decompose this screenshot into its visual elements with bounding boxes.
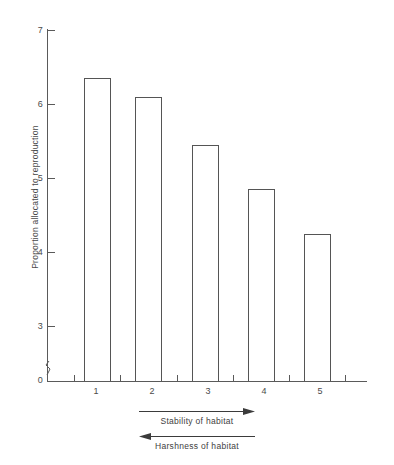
bar-category-1 bbox=[84, 78, 111, 381]
x-tick-5 bbox=[345, 375, 346, 382]
x-axis-line bbox=[47, 381, 367, 382]
x-tick-1 bbox=[120, 375, 121, 382]
y-axis-title: Proportion allocated to reproduction bbox=[30, 82, 40, 312]
y-tick-label-3: 3 bbox=[28, 322, 43, 331]
harshness-annotation: Harshness of habitat bbox=[0, 432, 394, 452]
x-tick-label-4: 4 bbox=[254, 386, 274, 396]
y-tick-4 bbox=[48, 252, 55, 253]
stability-annotation: Stability of habitat bbox=[0, 407, 394, 427]
x-tick-4 bbox=[289, 375, 290, 382]
x-tick-label-3: 3 bbox=[198, 386, 218, 396]
y-axis-line bbox=[47, 29, 48, 381]
bar-chart-figure: 7 6 5 4 3 0 Proportion allocated to repr… bbox=[0, 0, 394, 465]
x-tick-label-2: 2 bbox=[142, 386, 162, 396]
arrow-right-icon bbox=[139, 407, 255, 416]
y-axis-break-mark bbox=[43, 361, 53, 375]
x-tick-label-5: 5 bbox=[310, 386, 330, 396]
y-tick-label-7: 7 bbox=[28, 26, 43, 35]
arrow-left-icon bbox=[139, 432, 255, 441]
x-tick-2 bbox=[177, 375, 178, 382]
y-tick-3 bbox=[48, 326, 55, 327]
y-tick-label-0: 0 bbox=[28, 376, 43, 385]
bar-category-5 bbox=[304, 234, 331, 382]
x-tick-0 bbox=[74, 375, 75, 382]
y-tick-6 bbox=[48, 104, 55, 105]
harshness-label: Harshness of habitat bbox=[0, 441, 394, 452]
y-tick-5 bbox=[48, 178, 55, 179]
bar-category-3 bbox=[192, 145, 219, 381]
y-tick-7 bbox=[48, 30, 55, 31]
stability-label: Stability of habitat bbox=[0, 416, 394, 427]
bar-category-4 bbox=[248, 189, 275, 381]
x-tick-3 bbox=[233, 375, 234, 382]
x-tick-label-1: 1 bbox=[86, 386, 106, 396]
bar-category-2 bbox=[135, 97, 162, 381]
